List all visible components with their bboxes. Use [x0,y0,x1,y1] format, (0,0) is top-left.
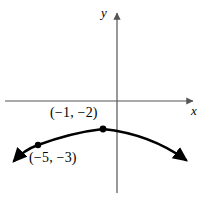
secondary-point-label: (−5, −3) [29,151,77,165]
graph-figure: y x (−1, −2) (−5, −3) [0,0,207,197]
parabola-curve-right [103,129,186,160]
point-secondary-marker [35,142,41,148]
y-axis-label: y [101,6,107,19]
coordinate-plane-svg [0,0,207,197]
x-axis-label: x [191,104,197,117]
parabola-curve [38,129,103,145]
point-vertex-marker [100,126,107,133]
vertex-point-label: (−1, −2) [50,106,98,120]
